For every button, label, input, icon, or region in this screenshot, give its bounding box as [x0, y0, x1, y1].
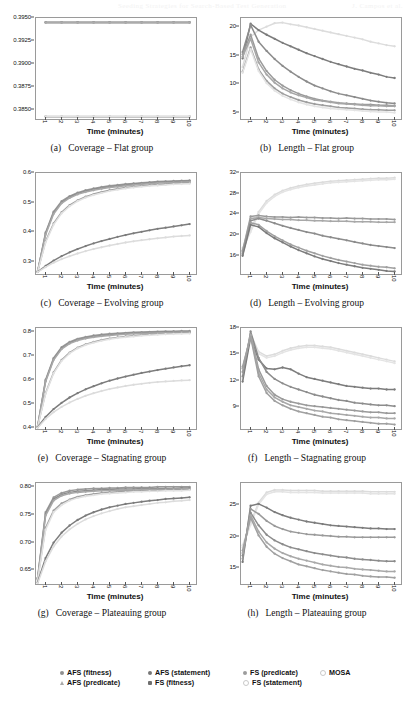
- y-axis-ticks-b: 2015105: [205, 14, 239, 118]
- x-tick-label: 1: [42, 275, 48, 278]
- y-tick-mark: [236, 504, 239, 505]
- y-tick-mark: [31, 201, 34, 202]
- x-tick-label: 9: [375, 430, 381, 433]
- legend-item-0: AFS (fitness): [60, 668, 111, 677]
- subplot-c: 0.60.50.40.312345678910Time (minutes)(c)…: [0, 169, 204, 324]
- x-axis-title-f: Time (minutes): [240, 437, 400, 446]
- x-tick-label: 9: [375, 585, 381, 588]
- axes-frame-e: [35, 327, 197, 430]
- axes-frame-f: [240, 327, 402, 430]
- x-tick-label: 2: [58, 430, 64, 433]
- x-tick-label: 6: [122, 275, 128, 278]
- legend-item-5: FS (fitness): [148, 678, 194, 687]
- y-tick-mark: [31, 426, 34, 427]
- subplot-e: 0.80.70.60.50.412345678910Time (minutes)…: [0, 324, 204, 479]
- y-tick-label: 0.6: [23, 376, 31, 382]
- x-tick-label: 5: [106, 120, 112, 123]
- x-tick-label: 7: [138, 585, 144, 588]
- x-tick-label: 10: [186, 275, 192, 281]
- plot-area-g: 0.800.750.700.6512345678910Time (minutes…: [0, 479, 204, 605]
- y-tick-mark: [236, 327, 239, 328]
- y-tick-label: 0.3875: [13, 83, 31, 89]
- axes-frame-c: [35, 172, 197, 275]
- y-tick-label: 0.5: [23, 400, 31, 406]
- subplot-tag: (a): [51, 143, 62, 153]
- series-c-1: [36, 180, 190, 273]
- series-f-4: [241, 333, 395, 414]
- subplot-h: 25201512345678910Time (minutes)(h)Length…: [205, 479, 409, 634]
- y-tick-mark: [31, 172, 34, 173]
- subplot-b: 201510512345678910Time (minutes)(b)Lengt…: [205, 14, 409, 169]
- legend-item-4: AFS (predicate): [60, 678, 120, 687]
- x-tick-label: 4: [295, 275, 301, 278]
- x-tick-label: 9: [375, 275, 381, 278]
- x-tick-label: 1: [247, 430, 253, 433]
- x-axis-title-c: Time (minutes): [35, 282, 195, 291]
- y-tick-mark: [236, 213, 239, 214]
- subplot-caption-e: (e)Coverage – Stagnating group: [0, 453, 204, 463]
- subplot-caption-text: Length – Flat group: [278, 143, 354, 153]
- subplot-row-4: 0.800.750.700.6512345678910Time (minutes…: [0, 479, 409, 634]
- subplot-tag: (e): [38, 453, 49, 463]
- y-tick-mark: [236, 379, 239, 380]
- y-tick-mark: [31, 514, 34, 515]
- y-tick-mark: [31, 85, 34, 86]
- y-tick-label: 0.3850: [13, 106, 31, 112]
- y-tick-mark: [236, 535, 239, 536]
- x-tick-label: 6: [122, 585, 128, 588]
- y-tick-label: 0.3950: [13, 14, 31, 20]
- x-tick-label: 7: [138, 430, 144, 433]
- y-tick-label: 0.8: [23, 328, 31, 334]
- series-e-5: [36, 364, 190, 428]
- legend-marker-icon: [243, 671, 247, 675]
- y-tick-label: 0.6: [23, 169, 31, 175]
- subplot-caption-d: (d)Length – Evolving group: [205, 298, 409, 308]
- legend-label: AFS (statement): [155, 668, 210, 677]
- x-axis-title-g: Time (minutes): [35, 592, 195, 601]
- y-tick-mark: [236, 192, 239, 193]
- y-tick-mark: [31, 541, 34, 542]
- legend-item-3: MOSA: [320, 668, 351, 677]
- y-tick-mark: [236, 172, 239, 173]
- y-tick-label: 0.4: [23, 228, 31, 234]
- x-tick-label: 7: [343, 275, 349, 278]
- subplot-tag: (c): [41, 298, 52, 308]
- x-tick-label: 10: [391, 585, 397, 591]
- x-tick-label: 2: [263, 120, 269, 123]
- series-d-1: [241, 178, 395, 251]
- x-tick-label: 8: [359, 585, 365, 588]
- y-axis-ticks-g: 0.800.750.700.65: [0, 479, 34, 583]
- axes-frame-b: [240, 17, 402, 120]
- subplot-caption-text: Coverage – Plateauing group: [56, 608, 167, 618]
- subplot-tag: (h): [247, 608, 258, 618]
- y-tick-label: 0.3900: [13, 60, 31, 66]
- x-tick-label: 2: [58, 585, 64, 588]
- y-tick-mark: [31, 402, 34, 403]
- series-d-0: [241, 177, 395, 250]
- plot-area-b: 201510512345678910Time (minutes): [205, 14, 409, 140]
- legend-marker-icon: [148, 671, 152, 675]
- x-tick-label: 6: [327, 585, 333, 588]
- y-tick-label: 0.7: [23, 352, 31, 358]
- subplot-caption-text: Length – Stagnating group: [264, 453, 366, 463]
- legend-label: AFS (fitness): [67, 668, 111, 677]
- x-tick-label: 6: [122, 120, 128, 123]
- y-tick-label: 0.5: [23, 199, 31, 205]
- x-tick-label: 10: [186, 585, 192, 591]
- x-axis-title-h: Time (minutes): [240, 592, 400, 601]
- x-tick-label: 9: [375, 120, 381, 123]
- series-b-2: [241, 24, 395, 105]
- x-tick-label: 6: [122, 430, 128, 433]
- x-tick-label: 8: [154, 120, 160, 123]
- legend-item-1: AFS (statement): [148, 668, 210, 677]
- page-running-header: Seeding Strategies for Search-Based Test…: [0, 2, 409, 14]
- legend-marker-icon: [60, 681, 64, 685]
- y-tick-label: 0.3: [23, 258, 31, 264]
- y-tick-mark: [31, 378, 34, 379]
- subplot-caption-text: Length – Plateauing group: [266, 608, 367, 618]
- x-tick-label: 1: [42, 430, 48, 433]
- x-tick-label: 9: [170, 430, 176, 433]
- subplot-tag: (g): [38, 608, 49, 618]
- subplot-d: 322824201612345678910Time (minutes)(d)Le…: [205, 169, 409, 324]
- y-tick-mark: [236, 254, 239, 255]
